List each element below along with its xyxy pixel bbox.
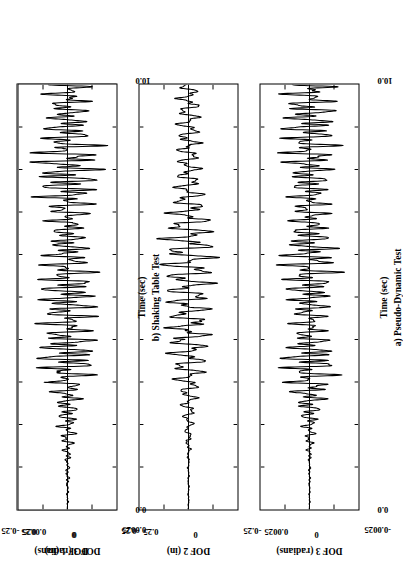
waveform-a-dof2 [139, 84, 237, 509]
caption-column-a: a) Pseudo-Dynamic Test [392, 248, 402, 346]
xtick-a-start: 0.0 [377, 505, 388, 515]
xlabel-a: Time (sec) [378, 276, 388, 318]
ylabel-a-dof3: DOF 3 (radians) [276, 545, 342, 555]
ytick-a-dof2-zero: 0 [193, 530, 197, 540]
ytick-a-dof3-zero: 0 [314, 530, 318, 540]
plot-panel-a-dof2 [138, 83, 238, 510]
ytick-a-dof2-max: 0.25 [143, 526, 158, 536]
waveform-a-dof1 [17, 84, 115, 509]
plot-panel-a-dof1 [16, 83, 116, 510]
ylabel-a-dof1: DOF 1 (in) [44, 545, 87, 555]
ylabel-a-dof2: DOF 2 (in) [166, 545, 209, 555]
waveform-a-dof3 [260, 84, 358, 509]
ytick-a-dof3-min: -0.0025 [364, 525, 391, 535]
ytick-a-dof1-min: -0.25 [121, 525, 139, 535]
ytick-a-dof1-max: 0.25 [21, 526, 36, 536]
plot-panel-a-dof3 [259, 83, 359, 510]
ytick-a-dof1-zero: 0 [71, 530, 75, 540]
figure-page: DOF 1 (in) DOF 2 (in) DOF 3 (radians) 0.… [0, 0, 403, 572]
ytick-a-dof3-max: 0.0025 [264, 526, 288, 536]
ytick-a-dof2-min: -0.25 [243, 525, 261, 535]
xtick-a-end: 10.0 [377, 75, 392, 85]
figure-rotated-canvas: DOF 1 (in) DOF 2 (in) DOF 3 (radians) 0.… [0, 0, 403, 572]
